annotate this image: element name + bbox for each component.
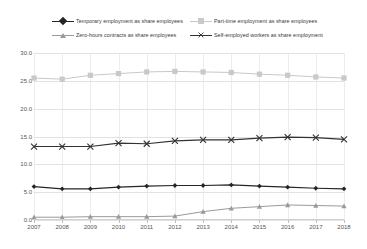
series-line	[34, 205, 344, 217]
chart-series	[31, 134, 347, 149]
x-axis-tick	[344, 220, 345, 223]
legend-row-2: Zero-hours contracts as share employees …	[0, 28, 367, 42]
series-data-point	[144, 184, 149, 189]
y-axis-tick-label: 20.0	[2, 106, 32, 112]
x-axis-tick-label: 2013	[188, 224, 218, 230]
series-data-point	[257, 72, 262, 77]
series-data-point	[88, 73, 93, 78]
x-axis-tick	[175, 220, 176, 223]
series-line	[34, 137, 344, 146]
x-axis-tick-label: 2012	[160, 224, 190, 230]
y-axis-tick-label: 30.0	[2, 50, 32, 56]
series-data-point	[144, 69, 149, 74]
series-data-point	[60, 77, 65, 82]
series-data-point	[313, 186, 318, 191]
x-axis-tick-label: 2017	[301, 224, 331, 230]
y-axis-tick-label: 10.0	[2, 161, 32, 167]
series-data-point	[201, 183, 206, 188]
series-data-point	[341, 75, 346, 80]
series-data-point	[200, 69, 205, 74]
legend-label-part-time-employment: Part-time employment as share employees	[214, 14, 317, 28]
x-axis: 2007200820092010201120122013201420152016…	[34, 224, 344, 236]
series-data-point	[116, 71, 121, 76]
series-data-point	[285, 73, 290, 78]
series-data-point	[342, 186, 347, 191]
legend-marker-square-icon	[190, 16, 212, 26]
series-lines	[34, 53, 344, 220]
series-data-point	[172, 69, 177, 74]
x-axis-tick	[119, 220, 120, 223]
x-axis-tick-label: 2011	[132, 224, 162, 230]
legend-label-temporary-employment: Temporary employment as share employees	[76, 14, 183, 28]
legend-label-zero-hours-contracts: Zero-hours contracts as share employees	[76, 28, 176, 42]
chart-screenshot: Temporary employment as share employees …	[0, 0, 367, 249]
y-axis-tick-label: 5.0	[2, 189, 32, 195]
legend-marker-diamond-icon	[52, 16, 74, 26]
series-data-point	[229, 183, 234, 188]
x-axis-tick-label: 2014	[216, 224, 246, 230]
x-axis-tick	[231, 220, 232, 223]
legend-row-1: Temporary employment as share employees …	[0, 14, 367, 28]
x-axis-baseline	[34, 219, 344, 220]
x-axis-tick	[203, 220, 204, 223]
series-data-point	[229, 70, 234, 75]
legend-marker-x-icon	[190, 30, 212, 40]
y-axis: 0.05.010.015.020.025.030.0	[0, 53, 32, 220]
series-data-point	[116, 185, 121, 190]
legend-entry-self-employed-workers: Self-employed workers as share employmen…	[190, 28, 323, 42]
series-data-point	[32, 184, 37, 189]
x-axis-tick	[259, 220, 260, 223]
series-line	[34, 185, 344, 189]
x-axis-tick-label: 2008	[47, 224, 77, 230]
x-axis-tick	[34, 220, 35, 223]
x-axis-tick-label: 2018	[329, 224, 359, 230]
legend-entry-part-time-employment: Part-time employment as share employees	[190, 14, 317, 28]
series-data-point	[173, 183, 178, 188]
series-data-point	[313, 74, 318, 79]
series-data-point	[88, 186, 93, 191]
gridline-horizontal	[34, 220, 344, 221]
y-axis-tick-label: 0.0	[2, 217, 32, 223]
x-axis-tick-label: 2010	[104, 224, 134, 230]
series-data-point	[285, 185, 290, 190]
legend-entry-zero-hours-contracts: Zero-hours contracts as share employees	[52, 28, 176, 42]
y-axis-tick-label: 25.0	[2, 78, 32, 84]
x-axis-tick-label: 2016	[273, 224, 303, 230]
x-axis-tick	[62, 220, 63, 223]
x-axis-tick	[147, 220, 148, 223]
y-axis-tick-label: 15.0	[2, 134, 32, 140]
legend-entry-temporary-employment: Temporary employment as share employees	[52, 14, 183, 28]
x-axis-tick-label: 2007	[19, 224, 49, 230]
x-axis-tick	[316, 220, 317, 223]
x-axis-tick	[90, 220, 91, 223]
series-data-point	[257, 184, 262, 189]
legend-marker-triangle-icon	[52, 30, 74, 40]
x-axis-tick	[288, 220, 289, 223]
chart-series	[32, 183, 347, 192]
chart-series	[31, 69, 346, 82]
series-line	[34, 71, 344, 79]
chart-legend: Temporary employment as share employees …	[0, 14, 367, 46]
chart-series	[31, 202, 346, 219]
legend-label-self-employed-workers: Self-employed workers as share employmen…	[214, 28, 323, 42]
x-axis-tick-label: 2009	[75, 224, 105, 230]
series-data-point	[60, 186, 65, 191]
series-data-point	[31, 75, 36, 80]
plot-area	[34, 53, 344, 220]
x-axis-tick-label: 2015	[244, 224, 274, 230]
